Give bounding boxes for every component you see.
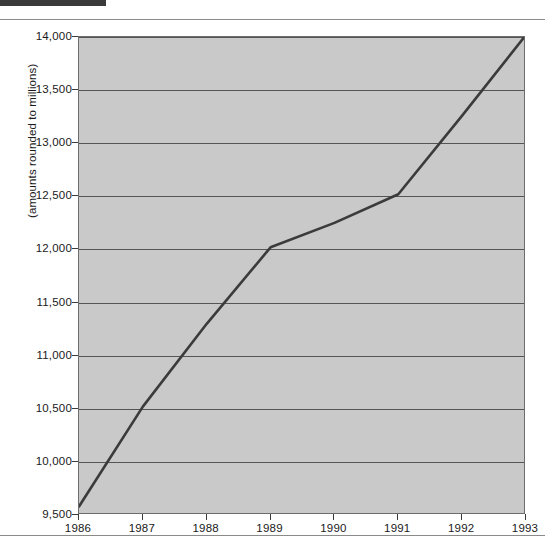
x-axis-tick-label: 1990 (320, 522, 346, 534)
x-axis-tick-mark (525, 514, 526, 520)
y-axis-tick-label: 14,000 (36, 30, 72, 42)
x-axis-tick-mark (461, 514, 462, 520)
y-axis-tick-label: 13,000 (36, 136, 72, 148)
y-axis-tick-label: 12,000 (36, 242, 72, 254)
y-axis-tick-label: 11,000 (36, 349, 72, 361)
series-polyline (79, 37, 524, 506)
y-axis-tick-label: 10,000 (36, 455, 72, 467)
x-axis-tick-label: 1987 (129, 522, 155, 534)
y-axis-tick-label: 10,500 (36, 402, 72, 414)
x-axis-tick-label: 1986 (65, 522, 91, 534)
plot-area (78, 36, 525, 514)
y-axis-tick-label: 11,500 (36, 296, 72, 308)
data-series-line (79, 37, 524, 513)
chart-page: (amounts rounded to millions) 9,50010,00… (0, 0, 545, 553)
x-axis-tick-mark (142, 514, 143, 520)
plot-inner (79, 37, 524, 513)
x-axis-tick-mark (333, 514, 334, 520)
x-axis-tick-label: 1991 (384, 522, 410, 534)
x-axis-tick-mark (397, 514, 398, 520)
bottom-divider-rule (0, 535, 545, 536)
x-axis-tick-label: 1992 (448, 522, 474, 534)
y-axis-tick-label: 12,500 (36, 189, 72, 201)
top-marker-bar (0, 0, 106, 6)
x-axis-tick-mark (270, 514, 271, 520)
x-axis-tick-mark (78, 514, 79, 520)
x-axis-tick-label: 1988 (193, 522, 219, 534)
line-chart-figure: (amounts rounded to millions) 9,50010,00… (0, 20, 545, 535)
x-axis-tick-mark (206, 514, 207, 520)
x-axis-tick-label: 1993 (512, 522, 538, 534)
x-axis-tick-label: 1989 (256, 522, 282, 534)
y-axis-title: (amounts rounded to millions) (26, 200, 38, 218)
y-axis-tick-label: 9,500 (42, 508, 72, 520)
y-axis-tick-label: 13,500 (36, 83, 72, 95)
